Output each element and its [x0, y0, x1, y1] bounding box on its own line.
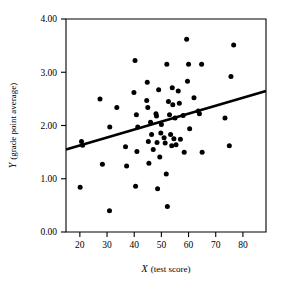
data-point — [168, 132, 173, 137]
data-point — [157, 154, 162, 159]
y-tick-label: 3.00 — [40, 68, 57, 78]
data-point — [124, 163, 129, 168]
x-tick-label: 20 — [75, 240, 85, 250]
data-point — [174, 142, 179, 147]
data-point — [134, 149, 139, 154]
scatter-plot-figure: 203040506070800.001.002.003.004.00X(test… — [0, 0, 281, 288]
data-point — [199, 62, 204, 67]
y-tick-label: 2.00 — [40, 121, 57, 131]
data-point — [197, 111, 202, 116]
plot-frame — [66, 19, 266, 232]
data-point — [164, 171, 169, 176]
data-point — [146, 139, 151, 144]
data-point — [171, 136, 176, 141]
data-point — [200, 150, 205, 155]
data-point — [231, 43, 236, 48]
data-point — [107, 208, 112, 213]
data-point — [176, 88, 181, 93]
data-point — [158, 130, 163, 135]
data-point — [181, 113, 186, 118]
data-point — [145, 80, 150, 85]
data-point — [144, 98, 149, 103]
x-tick-label: 70 — [211, 240, 221, 250]
data-point — [163, 141, 168, 146]
data-point — [162, 135, 167, 140]
x-tick-label: 40 — [129, 240, 139, 250]
data-point — [170, 85, 175, 90]
data-point — [164, 62, 169, 67]
data-point — [155, 186, 160, 191]
data-point — [167, 112, 172, 117]
data-point — [186, 62, 191, 67]
data-point — [149, 132, 154, 137]
data-point — [165, 204, 170, 209]
data-point — [151, 147, 156, 152]
x-tick-label: 60 — [184, 240, 194, 250]
data-point — [154, 113, 159, 118]
x-tick-label: 50 — [157, 240, 167, 250]
y-axis-title: Y(grade point average) — [7, 83, 18, 169]
data-point — [184, 37, 189, 42]
data-point — [80, 143, 85, 148]
data-point — [170, 102, 175, 107]
data-point — [191, 95, 196, 100]
data-point — [222, 116, 227, 121]
data-point — [97, 96, 102, 101]
data-point — [182, 150, 187, 155]
data-point — [107, 125, 112, 130]
x-axis-title: X(test score) — [141, 263, 191, 274]
data-point — [114, 105, 119, 110]
x-tick-label: 80 — [238, 240, 248, 250]
y-tick-label: 0.00 — [40, 227, 57, 237]
data-point — [135, 125, 140, 130]
data-point — [131, 90, 136, 95]
y-tick-label: 1.00 — [40, 174, 57, 184]
data-point — [146, 161, 151, 166]
regression-line — [66, 91, 266, 150]
scatter-plot-canvas: 203040506070800.001.002.003.004.00X(test… — [0, 0, 281, 288]
data-point — [148, 120, 153, 125]
data-point — [133, 58, 138, 63]
x-tick-label: 30 — [102, 240, 112, 250]
data-point — [100, 162, 105, 167]
data-point — [227, 143, 232, 148]
y-tick-label: 4.00 — [40, 14, 57, 24]
data-point — [178, 137, 183, 142]
data-point — [166, 99, 171, 104]
data-point — [133, 184, 138, 189]
data-point — [172, 116, 177, 121]
data-point — [156, 87, 161, 92]
data-point — [185, 79, 190, 84]
data-point — [187, 126, 192, 131]
data-point — [145, 105, 150, 110]
data-point — [155, 140, 160, 145]
data-point — [169, 143, 174, 148]
data-point — [228, 74, 233, 79]
data-point — [159, 122, 164, 127]
data-point — [78, 185, 83, 190]
data-point — [177, 101, 182, 106]
data-point — [134, 112, 139, 117]
data-point — [123, 144, 128, 149]
